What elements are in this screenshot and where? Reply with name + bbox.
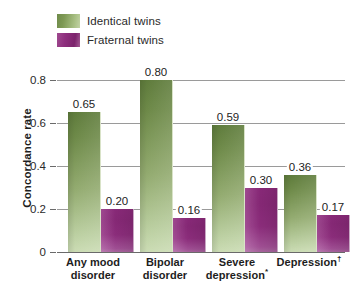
bar-groups: 0.65 0.20 0.80 0.16 0.59 0.30: [57, 80, 345, 252]
x-label-bipolar-disorder-line2: disorder: [143, 269, 187, 281]
bar-value-identical-any-mood-disorder: 0.65: [71, 98, 97, 110]
y-tick-label-0.6: 0.6: [30, 117, 46, 129]
legend-item-identical-twins: Identical twins: [57, 13, 164, 28]
bar-identical-any-mood-disorder: 0.65: [68, 112, 101, 252]
bar-fraternal-depression: 0.17: [317, 215, 350, 252]
tick-mark-0: [50, 252, 56, 253]
bar-value-fraternal-bipolar-disorder: 0.16: [176, 204, 202, 216]
bar-identical-bipolar-disorder: 0.80: [140, 80, 173, 252]
plot-area: 0.8 0.6 0.4 0.2 0 0.65 0.20: [57, 80, 345, 252]
x-label-depression-marker: †: [337, 254, 342, 263]
x-label-depression-line1: Depression: [277, 256, 337, 268]
y-tick-label-0.4: 0.4: [30, 160, 46, 172]
y-tick-label-0.2: 0.2: [30, 203, 46, 215]
bar-value-fraternal-any-mood-disorder: 0.20: [104, 195, 130, 207]
y-tick-label-0: 0: [40, 246, 46, 258]
tick-mark-0.8: [50, 80, 56, 81]
x-label-bipolar-disorder: Bipolar disorder: [129, 256, 201, 281]
bar-group-depression: 0.36 0.17: [273, 80, 345, 252]
x-label-severe-depression-line1: Severe: [219, 256, 255, 268]
x-label-any-mood-disorder: Any mood disorder: [57, 256, 129, 281]
bar-value-identical-severe-depression: 0.59: [215, 111, 241, 123]
y-tick-label-0.8: 0.8: [30, 74, 46, 86]
legend-label-identical-twins: Identical twins: [87, 15, 161, 27]
legend-label-fraternal-twins: Fraternal twins: [87, 34, 164, 46]
legend-swatch-fraternal-twins: [57, 33, 80, 47]
chart-legend: Identical twins Fraternal twins: [57, 13, 164, 47]
bar-value-identical-depression: 0.36: [287, 161, 313, 173]
legend-item-fraternal-twins: Fraternal twins: [57, 32, 164, 47]
x-label-depression: Depression†: [273, 256, 345, 281]
bar-value-fraternal-severe-depression: 0.30: [248, 174, 274, 186]
bar-identical-severe-depression: 0.59: [212, 125, 245, 252]
bar-value-identical-bipolar-disorder: 0.80: [143, 66, 169, 78]
x-label-any-mood-disorder-line2: disorder: [71, 269, 115, 281]
concordance-rate-bar-chart: Identical twins Fraternal twins Concorda…: [0, 0, 351, 300]
bar-group-bipolar-disorder: 0.80 0.16: [129, 80, 201, 252]
legend-swatch-identical-twins: [57, 14, 80, 28]
bar-group-severe-depression: 0.59 0.30: [201, 80, 273, 252]
x-label-severe-depression-marker: *: [265, 267, 268, 276]
bar-group-any-mood-disorder: 0.65 0.20: [57, 80, 129, 252]
x-axis-labels: Any mood disorder Bipolar disorder Sever…: [57, 256, 345, 281]
bar-value-fraternal-depression: 0.17: [320, 201, 346, 213]
x-label-severe-depression-line2: depression: [206, 269, 265, 281]
tick-mark-0.2: [50, 209, 56, 210]
y-axis-title: Concordance rate: [21, 98, 33, 218]
tick-mark-0.4: [50, 166, 56, 167]
bar-identical-depression: 0.36: [284, 175, 317, 252]
tick-mark-0.6: [50, 123, 56, 124]
x-label-bipolar-disorder-line1: Bipolar: [146, 256, 184, 268]
x-label-severe-depression: Severe depression*: [201, 256, 273, 281]
gridline-baseline-0: 0: [57, 252, 345, 253]
x-label-any-mood-disorder-line1: Any mood: [66, 256, 120, 268]
